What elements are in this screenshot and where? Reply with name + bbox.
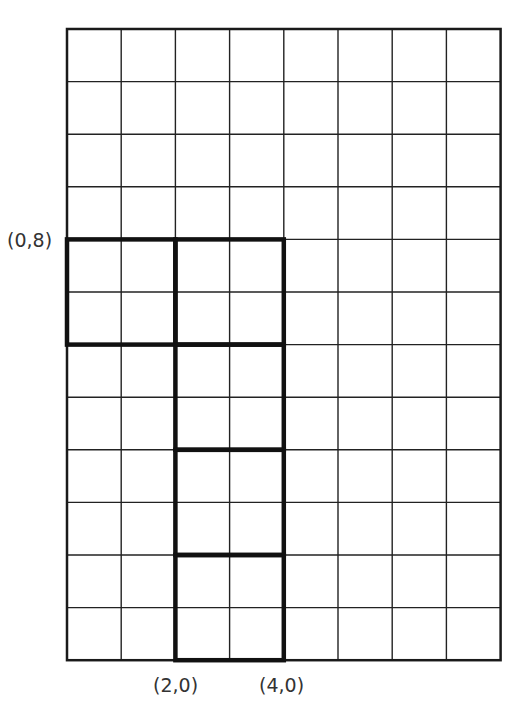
coordinate-label-2-0: (2,0) [153, 674, 198, 696]
coordinate-label-0-8: (0,8) [7, 229, 52, 251]
grid-diagram [0, 0, 513, 706]
coordinate-label-4-0: (4,0) [259, 674, 304, 696]
